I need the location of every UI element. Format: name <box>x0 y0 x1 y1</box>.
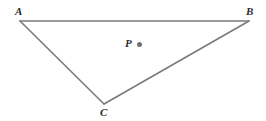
triangle-canvas <box>0 0 266 121</box>
edge-ca <box>20 21 104 104</box>
point-label-p: P <box>125 38 132 49</box>
vertex-label-a: A <box>15 6 22 17</box>
edge-bc <box>104 21 249 104</box>
vertex-label-c: C <box>100 107 107 118</box>
vertex-label-b: B <box>246 6 253 17</box>
point-marker-p <box>137 42 142 47</box>
triangle-diagram: A B C P <box>0 0 266 121</box>
